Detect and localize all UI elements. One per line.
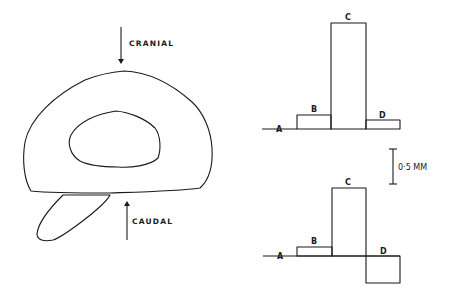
cranial-arrow: [118, 27, 124, 64]
inner-canal-outline: [69, 111, 160, 167]
bar-label-b: B: [311, 237, 317, 246]
bar-b: [297, 247, 332, 256]
scale-bar-label: 0·5 MM: [398, 163, 427, 172]
bar-label-c: C: [345, 13, 351, 22]
bar-label-d: D: [379, 111, 386, 120]
bar-label-c: C: [345, 178, 351, 187]
bar-label-d: D: [380, 247, 387, 256]
scale-bar: 0·5 MM: [389, 149, 427, 184]
bar-label-b: B: [311, 105, 317, 114]
bar-d: [366, 120, 400, 129]
bar-label-a: A: [276, 125, 283, 134]
bar-label-a: A: [277, 252, 284, 261]
caudal-arrow: [124, 201, 130, 240]
outer-section-outline: [24, 71, 213, 193]
top-bar-chart: A B C D: [262, 13, 400, 134]
bar-c: [332, 188, 366, 256]
bar-c: [331, 23, 366, 129]
bottom-bar-chart: A B C D: [263, 178, 400, 283]
bar-b: [297, 115, 331, 129]
caudal-label: CAUDAL: [132, 217, 173, 226]
bar-d: [366, 256, 400, 283]
figure-canvas: CRANIAL CAUDAL A B C D 0·5 MM A B C D: [0, 0, 453, 302]
cranial-label: CRANIAL: [129, 39, 174, 48]
appendage-outline: [37, 195, 110, 241]
cross-section-diagram: CRANIAL CAUDAL: [24, 27, 213, 241]
